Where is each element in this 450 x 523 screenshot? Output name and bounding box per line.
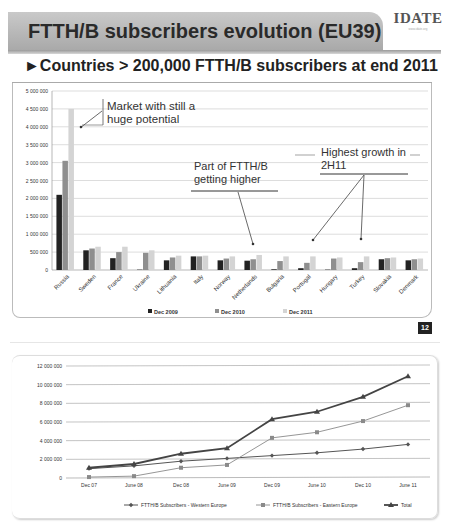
x-tick-label: Dec 08 <box>173 482 189 488</box>
square-marker-icon <box>315 430 319 434</box>
gridline <box>66 458 430 459</box>
square-marker-icon <box>406 403 410 407</box>
y-tick-label: 10 000 000 <box>37 382 62 388</box>
diamond-marker-icon <box>315 451 319 455</box>
square-marker-icon <box>361 419 365 423</box>
gridline <box>66 384 430 385</box>
gridline <box>66 440 430 441</box>
y-tick-label: 8 000 000 <box>40 400 62 406</box>
diamond-marker-icon <box>129 503 133 507</box>
x-tick-label: June 11 <box>399 482 417 488</box>
series-square <box>87 403 410 479</box>
y-tick-label: 0 <box>59 475 62 481</box>
y-tick-label: 2 000 000 <box>40 456 62 462</box>
gridline <box>66 365 430 366</box>
line-chart-series <box>86 373 411 479</box>
series-line <box>89 405 408 477</box>
square-marker-icon <box>87 475 91 479</box>
legend-item: Total <box>384 502 412 508</box>
square-marker-icon <box>270 436 274 440</box>
diamond-marker-icon <box>361 447 365 451</box>
line-chart-y-axis: 02 000 0004 000 0006 000 0008 000 00010 … <box>37 363 62 481</box>
legend-item: FTTH/B Subscribers - Eastern Europe <box>256 502 358 508</box>
triangle-marker-icon <box>405 373 411 378</box>
square-marker-icon <box>179 466 183 470</box>
legend-label: FTTH/B Subscribers - Western Europe <box>141 502 227 508</box>
diamond-marker-icon <box>406 442 410 446</box>
line-chart: 02 000 0004 000 0006 000 0008 000 00010 … <box>0 0 450 523</box>
legend-label: Total <box>401 502 412 508</box>
x-tick-label: June 10 <box>308 482 326 488</box>
gridline <box>66 402 430 403</box>
y-tick-label: 4 000 000 <box>40 438 62 444</box>
diamond-marker-icon <box>225 456 229 460</box>
legend-item: FTTH/B Subscribers - Western Europe <box>124 502 227 508</box>
x-tick-label: Dec 10 <box>355 482 371 488</box>
x-tick-label: June 08 <box>125 482 143 488</box>
y-tick-label: 12 000 000 <box>37 363 62 369</box>
gridline <box>66 421 430 422</box>
diamond-marker-icon <box>179 459 183 463</box>
square-marker-icon <box>132 474 136 478</box>
x-tick-label: June 09 <box>218 482 236 488</box>
legend-label: FTTH/B Subscribers - Eastern Europe <box>273 502 358 508</box>
gridline <box>66 477 430 478</box>
diamond-marker-icon <box>270 453 274 457</box>
x-tick-label: Dec 09 <box>264 482 280 488</box>
line-chart-legend: FTTH/B Subscribers - Western EuropeFTTH/… <box>124 502 412 508</box>
line-chart-gridlines <box>66 365 430 478</box>
series-diamond <box>87 442 410 471</box>
line-chart-x-axis: Dec 07June 08Dec 08June 09Dec 09June 10D… <box>81 482 417 488</box>
square-marker-icon <box>261 503 265 507</box>
square-marker-icon <box>225 463 229 467</box>
y-tick-label: 6 000 000 <box>40 419 62 425</box>
series-line <box>89 444 408 468</box>
x-tick-label: Dec 07 <box>81 482 97 488</box>
